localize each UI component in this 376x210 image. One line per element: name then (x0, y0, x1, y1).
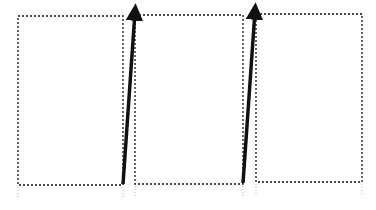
arrow-icon-2 (243, 11, 255, 183)
diagram-canvas (0, 0, 376, 210)
dotted-panel-2 (135, 15, 243, 184)
dotted-panel-1 (18, 16, 123, 185)
dotted-panel-3 (256, 14, 362, 182)
arrow-icon-1 (123, 12, 135, 184)
